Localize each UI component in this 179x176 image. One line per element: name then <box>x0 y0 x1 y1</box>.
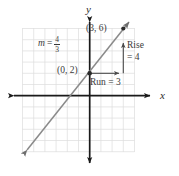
graph-figure: y x (3, 6) (0, 2) Run = 3 Rise = 4 m = 4… <box>0 0 179 176</box>
x-axis-label: x <box>160 90 165 101</box>
rise-label: Rise = 4 <box>127 40 144 64</box>
rise-label-line1: Rise <box>127 40 144 50</box>
point-label-3-6: (3, 6) <box>86 24 107 34</box>
run-label: Run = 3 <box>90 78 121 88</box>
slope-fraction: 4 3 <box>54 36 60 54</box>
slope-variable: m <box>38 39 45 49</box>
point-label-0-2: (0, 2) <box>57 66 78 76</box>
rise-label-line2: = 4 <box>127 52 144 64</box>
slope-denominator: 3 <box>54 46 60 54</box>
y-axis-label: y <box>86 4 91 15</box>
slope-equals-sign: = <box>47 39 52 49</box>
point-marker-intercept <box>87 71 92 76</box>
point-marker-second <box>121 26 125 30</box>
slope-label: m = 4 3 <box>38 35 60 53</box>
slope-numerator: 4 <box>54 36 60 44</box>
